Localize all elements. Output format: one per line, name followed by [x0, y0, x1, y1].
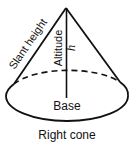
base-ellipse-right-arc [120, 82, 128, 96]
h-label: h [63, 45, 78, 52]
base-ellipse-left-arc [6, 84, 14, 96]
right-cone-diagram: Slant height Altitude h Base Right cone [0, 0, 137, 142]
diagram-title: Right cone [38, 128, 96, 142]
base-label: Base [53, 99, 81, 113]
